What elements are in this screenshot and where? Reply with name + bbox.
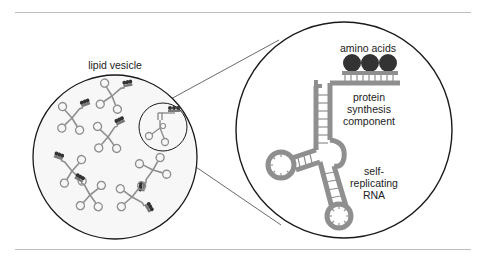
amino-acid xyxy=(379,54,397,72)
protein-label-line: component xyxy=(343,115,395,127)
amino-acid xyxy=(343,54,361,72)
protein-label-line: protein xyxy=(353,91,385,103)
rna-label-line: self- xyxy=(364,165,384,177)
rna-label-line: replicating xyxy=(350,177,398,189)
vesicle-label: lipid vesicle xyxy=(88,59,142,71)
protocell-diagram: lipid vesicle amino acids xyxy=(0,0,490,257)
rna-label-line: RNA xyxy=(363,189,385,201)
amino-acid xyxy=(361,54,379,72)
zoom-circle: amino acids xyxy=(236,22,452,238)
protein-label-line: synthesis xyxy=(347,103,391,115)
lipid-vesicle: lipid vesicle xyxy=(33,59,197,239)
amino-acids-label: amino acids xyxy=(340,42,396,54)
